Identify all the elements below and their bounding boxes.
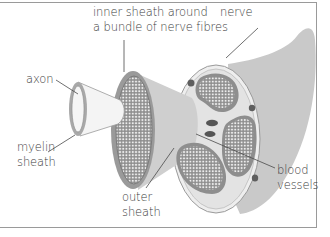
bundle-face xyxy=(116,76,152,184)
blood-vessel xyxy=(206,120,218,126)
label-inner-sheath: inner sheath around a bundle of nerve fi… xyxy=(93,5,228,35)
label-axon: axon xyxy=(26,72,53,87)
label-nerve: nerve xyxy=(220,5,252,20)
axon xyxy=(72,86,84,132)
blood-vessel xyxy=(252,175,258,182)
blood-vessel xyxy=(205,131,216,137)
blood-vessel xyxy=(249,105,255,111)
label-myelin-sheath: myelin sheath xyxy=(17,140,56,170)
label-blood-vessels: blood vessels xyxy=(277,163,318,193)
blood-vessel xyxy=(188,80,195,87)
label-outer-sheath: outer sheath xyxy=(122,190,161,220)
leader-nerve xyxy=(226,28,258,58)
nerve-illustration xyxy=(0,0,330,237)
